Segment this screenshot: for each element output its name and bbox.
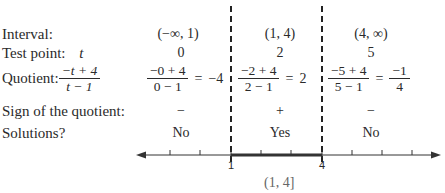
number-line [0,0,445,193]
tick-label-1: 1 [228,159,234,171]
tick-marks [170,150,412,158]
tick-label-4: 4 [319,159,325,171]
right-arrow-icon [431,152,441,159]
solution-interval-label: (1, 4] [264,175,294,191]
left-arrow-icon [136,152,146,159]
